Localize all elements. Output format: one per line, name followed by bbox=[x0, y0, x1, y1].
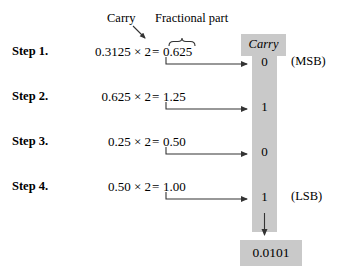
carry-callout-label: Carry bbox=[107, 11, 135, 26]
step-1-fraction-part: 625 bbox=[173, 44, 193, 59]
step-3-multiplier: 2 bbox=[145, 134, 152, 149]
step-1-equals: = bbox=[152, 44, 159, 60]
lsb-label: (LSB) bbox=[291, 189, 322, 204]
step-2-product: 1.25 bbox=[163, 89, 186, 105]
result-value: 0.0101 bbox=[240, 245, 302, 261]
carry-column-header: Carry bbox=[241, 34, 286, 56]
step-4-expression: 0.50 × 2 bbox=[108, 179, 151, 195]
step-3-operand: 0.25 bbox=[108, 134, 131, 149]
step-4-label: Step 4. bbox=[12, 179, 58, 194]
multiply-icon: × bbox=[134, 134, 141, 149]
figure-canvas: Carry Fractional part Carry 0 1 0 1 (MSB… bbox=[0, 0, 340, 275]
step-4-product: 1.00 bbox=[163, 179, 186, 195]
step-3-fraction-part: 50 bbox=[173, 134, 186, 149]
fractional-part-callout-label: Fractional part bbox=[155, 11, 228, 26]
carry-digit-3: 0 bbox=[252, 144, 277, 160]
step-2-fraction-part: 25 bbox=[173, 89, 186, 104]
step-4-multiplier: 2 bbox=[145, 179, 152, 194]
carry-digit-1: 0 bbox=[252, 54, 277, 70]
msb-label: (MSB) bbox=[291, 54, 326, 69]
step-1-expression: 0.3125 × 2 bbox=[95, 44, 151, 60]
step-2-multiplier: 2 bbox=[145, 89, 152, 104]
step-2-operand: 0.625 bbox=[101, 89, 130, 104]
multiply-icon: × bbox=[134, 179, 141, 194]
step-1-product: 0.625 bbox=[163, 44, 192, 60]
step-1-operand: 0.3125 bbox=[95, 44, 131, 59]
step-4-fraction-part: 00 bbox=[173, 179, 186, 194]
step-1-multiplier: 2 bbox=[145, 44, 152, 59]
multiply-icon: × bbox=[134, 89, 141, 104]
carry-digit-4: 1 bbox=[252, 189, 277, 205]
carry-digit-2: 1 bbox=[252, 99, 277, 115]
multiply-icon: × bbox=[134, 44, 141, 59]
step-3-product: 0.50 bbox=[163, 134, 186, 150]
carry-pointer-arrow bbox=[133, 26, 145, 38]
step-3-expression: 0.25 × 2 bbox=[108, 134, 151, 150]
step-4-equals: = bbox=[152, 179, 159, 195]
step-3-label: Step 3. bbox=[12, 134, 58, 149]
result-box: 0.0101 bbox=[240, 240, 302, 266]
step-3-equals: = bbox=[152, 134, 159, 150]
step-2-expression: 0.625 × 2 bbox=[101, 89, 151, 105]
step-2-label: Step 2. bbox=[12, 89, 58, 104]
carry-column-header-label: Carry bbox=[241, 37, 286, 52]
step-1-label: Step 1. bbox=[12, 44, 58, 59]
step-4-operand: 0.50 bbox=[108, 179, 131, 194]
step-2-equals: = bbox=[152, 89, 159, 105]
